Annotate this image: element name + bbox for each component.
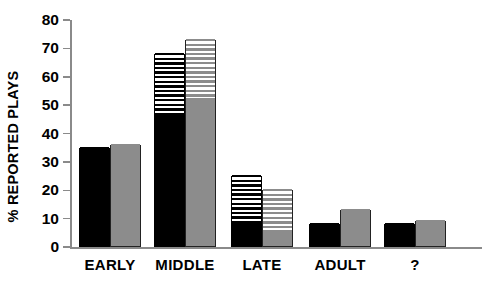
x-axis-label-adult: ADULT bbox=[314, 256, 365, 273]
bar-solid-segment bbox=[80, 147, 109, 246]
bar-black-late bbox=[231, 176, 262, 247]
bar-hatched-segment bbox=[186, 39, 215, 99]
bar-group bbox=[79, 20, 141, 247]
y-axis-tick: 20 bbox=[63, 190, 70, 192]
plot-area: 01020304050607080 bbox=[70, 20, 480, 247]
bar-gray-early bbox=[110, 145, 141, 247]
x-axis-label-late: LATE bbox=[242, 256, 281, 273]
bar-gray-middle bbox=[185, 40, 216, 247]
bar-solid-segment bbox=[186, 98, 215, 246]
bar-gray-late bbox=[262, 190, 293, 247]
bar-solid-segment bbox=[232, 223, 261, 246]
y-axis-tick: 40 bbox=[63, 133, 70, 135]
bar-hatched-segment bbox=[232, 175, 261, 223]
y-axis-tick-label: 60 bbox=[42, 68, 59, 86]
y-axis-tick-label: 50 bbox=[42, 96, 59, 114]
bar-solid-segment bbox=[111, 144, 140, 246]
x-axis-label-middle: MIDDLE bbox=[155, 256, 214, 273]
bar-solid-segment bbox=[263, 232, 292, 246]
y-axis-tick-label: 80 bbox=[42, 11, 59, 29]
bar-chart: % REPORTED PLAYS 01020304050607080 EARLY… bbox=[0, 0, 491, 293]
y-axis-tick: 50 bbox=[63, 104, 70, 106]
bar-group bbox=[384, 20, 446, 247]
y-axis-tick-label: 20 bbox=[42, 181, 59, 199]
y-axis-tick-label: 70 bbox=[42, 39, 59, 57]
y-axis-tick-label: 40 bbox=[42, 125, 59, 143]
y-axis-tick: 10 bbox=[63, 218, 70, 220]
y-axis-title: % REPORTED PLAYS bbox=[0, 0, 26, 293]
bar-hatched-segment bbox=[263, 189, 292, 232]
bar-group bbox=[309, 20, 371, 247]
y-axis-line bbox=[70, 20, 72, 247]
bar-hatched-segment bbox=[155, 53, 184, 115]
x-axis-line bbox=[70, 247, 482, 249]
bar-black-adult bbox=[309, 224, 340, 247]
y-axis-tick-label: 30 bbox=[42, 153, 59, 171]
y-axis-tick: 60 bbox=[63, 76, 70, 78]
bar-solid-segment bbox=[385, 223, 414, 246]
bar-gray-unknown bbox=[415, 221, 446, 247]
y-axis-tick-label: 0 bbox=[50, 238, 59, 256]
bar-solid-segment bbox=[155, 115, 184, 246]
x-axis-label-early: EARLY bbox=[85, 256, 136, 273]
bar-gray-adult bbox=[340, 210, 371, 247]
bar-black-unknown bbox=[384, 224, 415, 247]
x-axis-label-unknown: ? bbox=[410, 256, 419, 273]
bar-solid-segment bbox=[416, 220, 445, 246]
y-axis-tick: 0 bbox=[63, 246, 70, 248]
bar-group bbox=[154, 20, 216, 247]
bar-black-middle bbox=[154, 54, 185, 247]
y-axis-tick-label: 10 bbox=[42, 210, 59, 228]
y-axis-tick: 30 bbox=[63, 161, 70, 163]
y-axis-tick: 80 bbox=[63, 19, 70, 21]
bar-black-early bbox=[79, 148, 110, 247]
y-axis-tick: 70 bbox=[63, 48, 70, 50]
bar-solid-segment bbox=[310, 223, 339, 246]
bar-group bbox=[231, 20, 293, 247]
bar-solid-segment bbox=[341, 209, 370, 246]
